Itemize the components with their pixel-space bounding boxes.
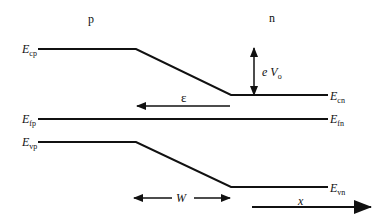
efn-label: Efn [330, 113, 344, 130]
evn-label: Evn [330, 182, 345, 199]
valence-band [38, 142, 328, 187]
efp-label: Efp [22, 113, 36, 130]
n-region-label: n [269, 12, 275, 24]
field-label: ε [181, 92, 186, 104]
width-label: W [176, 192, 186, 204]
ecp-label: Ecp [22, 43, 37, 60]
barrier-label: e Vo [262, 66, 282, 83]
p-region-label: p [88, 13, 94, 25]
position-label: x [298, 195, 303, 207]
ecn-label: Ecn [330, 90, 345, 107]
conduction-band [38, 49, 328, 95]
evp-label: Evp [22, 136, 37, 153]
